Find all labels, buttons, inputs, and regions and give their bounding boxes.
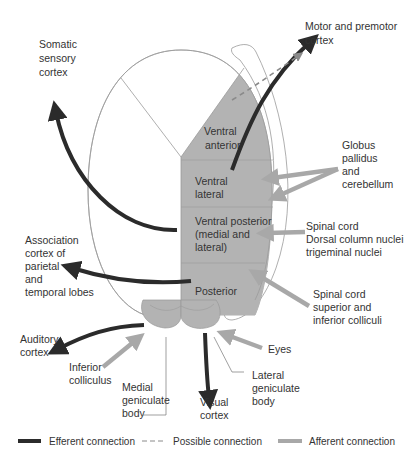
label-globus-2: pallidus: [342, 152, 378, 164]
label-ventral-lateral-2: lateral: [195, 188, 224, 200]
label-globus-1: Globus: [342, 139, 375, 151]
label-association-3: parietal: [25, 260, 59, 272]
label-inferior-2: colliculus: [69, 374, 112, 386]
label-spinal2-1: Spinal cord: [313, 288, 366, 300]
label-association-5: temporal lobes: [25, 286, 94, 298]
label-eyes: Eyes: [268, 343, 291, 355]
label-medial-gen-3: body: [122, 407, 146, 419]
label-auditory-2: cortex: [20, 346, 49, 358]
legend: Efferent connection Possible connection …: [18, 436, 395, 447]
label-somatic-2: sensory: [39, 52, 77, 64]
label-visual-1: Visual: [200, 396, 228, 408]
legend-afferent-label: Afferent connection: [309, 436, 395, 447]
label-inferior-1: Inferior: [69, 361, 102, 373]
label-ventral-posterior-3: lateral): [195, 241, 227, 253]
label-ventral-posterior-1: Ventral posterior: [195, 215, 272, 227]
label-lateral-gen-2: geniculate: [252, 382, 300, 394]
arrow-eyes-to-lgb: [227, 335, 262, 348]
legend-afferent: Afferent connection: [278, 436, 395, 447]
label-visual-2: cortex: [200, 409, 229, 421]
legend-efferent: Efferent connection: [18, 436, 135, 447]
label-spinal1-1: Spinal cord: [306, 220, 359, 232]
label-association-4: and: [25, 273, 43, 285]
label-somatic-3: cortex: [39, 66, 68, 78]
label-spinal2-3: inferior colliculi: [313, 314, 382, 326]
geniculate-bodies: [142, 300, 221, 328]
arrow-colliculus-to-mgb: [103, 340, 136, 367]
legend-possible-label: Possible connection: [173, 436, 262, 447]
label-medial-gen-1: Medial: [122, 381, 153, 393]
label-lateral-gen-3: body: [252, 395, 276, 407]
label-spinal2-2: superior and: [313, 301, 372, 313]
thalamus-diagram: Ventral anterior Ventral lateral Ventral…: [0, 0, 408, 454]
label-posterior: Posterior: [195, 285, 238, 297]
label-ventral-lateral-1: Ventral: [195, 175, 228, 187]
label-ventral-anterior-1: Ventral: [204, 125, 237, 137]
arrow-spinal-to-vp: [267, 232, 305, 233]
label-auditory-1: Auditory: [20, 333, 59, 345]
label-somatic-1: Somatic: [39, 38, 77, 50]
label-lateral-gen-1: Lateral: [252, 369, 284, 381]
label-globus-4: cerebellum: [342, 178, 394, 190]
legend-possible: Possible connection: [142, 436, 262, 447]
label-association-2: cortex of: [25, 247, 65, 259]
label-ventral-anterior-2: anterior: [205, 139, 241, 151]
label-medial-gen-2: geniculate: [122, 394, 170, 406]
leader-lateral-geniculate: [214, 337, 244, 372]
label-ventral-posterior-2: (medial and: [195, 228, 250, 240]
label-globus-3: and: [342, 165, 360, 177]
label-motor-2: cortex: [305, 34, 334, 46]
label-association-1: Association: [25, 234, 79, 246]
label-motor-1: Motor and premotor: [305, 20, 398, 32]
label-spinal1-2: Dorsal column nuclei: [306, 233, 403, 245]
arrow-to-visual-cortex: [205, 333, 209, 398]
label-spinal1-3: trigeminal nuclei: [306, 246, 382, 258]
legend-efferent-label: Efferent connection: [49, 436, 135, 447]
